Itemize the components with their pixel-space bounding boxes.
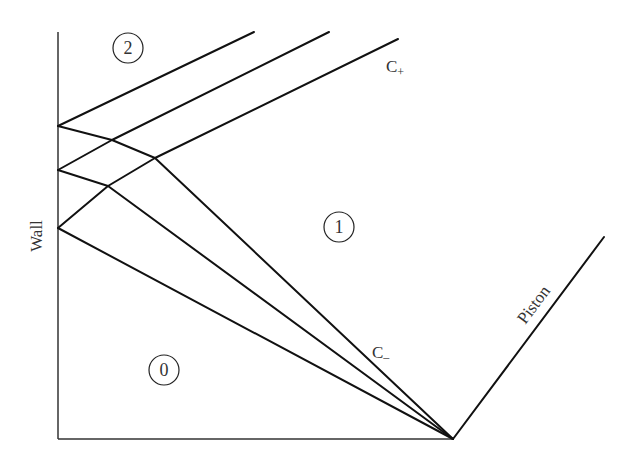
c-minus-wave-3 — [58, 228, 453, 439]
c-minus-wave-1 — [58, 126, 453, 439]
region-markers: 012 — [113, 33, 354, 385]
c-minus-subscript: – — [382, 350, 390, 364]
piston-label: Piston — [513, 282, 554, 328]
c-plus-reflected-2 — [58, 32, 329, 170]
c-plus-reflected-3 — [58, 39, 398, 228]
region-0-label: 0 — [160, 360, 169, 380]
c-minus-base: C — [372, 343, 383, 362]
c-plus-characteristics — [58, 32, 398, 228]
region-2-label: 2 — [124, 38, 133, 58]
c-plus-reflected-1 — [58, 32, 254, 126]
c-plus-label: C+ — [386, 57, 404, 79]
c-plus-base: C — [386, 57, 397, 76]
c-plus-subscript: + — [397, 65, 404, 79]
wall-label: Wall — [27, 220, 46, 252]
piston-trajectory — [453, 237, 604, 439]
c-minus-label: C– — [372, 343, 390, 364]
region-1-label: 1 — [335, 217, 344, 237]
c-minus-characteristics — [58, 126, 453, 439]
c-minus-wave-2 — [58, 170, 453, 439]
wave-diagram: 012 Wall Piston C+ C– — [0, 0, 628, 459]
